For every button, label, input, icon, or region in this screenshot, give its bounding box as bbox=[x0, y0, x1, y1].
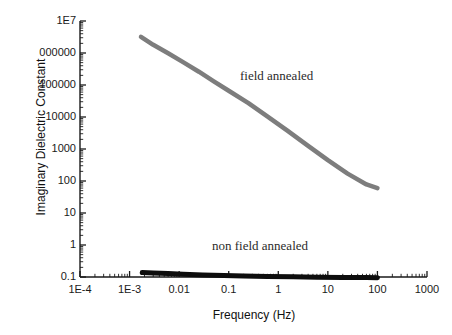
x-tick-label: 1000 bbox=[397, 283, 452, 295]
x-axis-title: Frequency (Hz) bbox=[80, 308, 428, 322]
y-tick-label: 1000 bbox=[52, 142, 76, 154]
y-tick-label: 100 bbox=[58, 174, 76, 186]
chart-figure: 1E70000001000001000010001001010.1 1E-41E… bbox=[0, 0, 452, 335]
series-annotation-field-annealed: field annealed bbox=[240, 68, 313, 84]
y-tick-label: 0.1 bbox=[61, 270, 76, 282]
y-tick-label: 10 bbox=[64, 206, 76, 218]
y-major-ticks bbox=[80, 21, 86, 277]
series-line-field-annealed bbox=[141, 37, 377, 188]
y-tick-label: 10000 bbox=[45, 110, 76, 122]
series-annotation-non-field-annealed: non field annealed bbox=[212, 238, 308, 254]
y-tick-label: 1E7 bbox=[56, 14, 76, 26]
y-axis-title: Imaginary Dielectric Constant bbox=[34, 12, 48, 262]
y-tick-label: 1 bbox=[70, 238, 76, 250]
